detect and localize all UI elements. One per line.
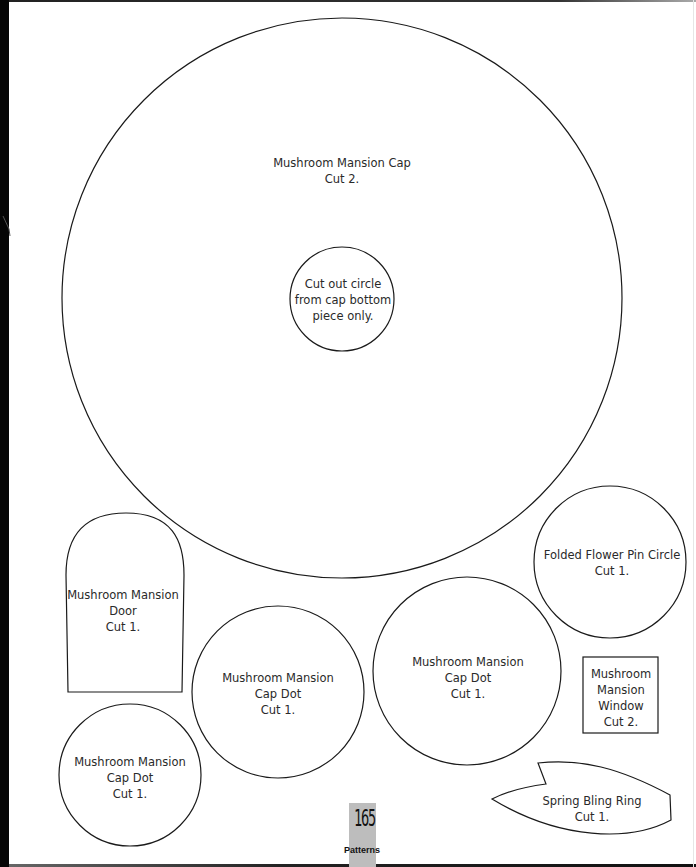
pattern-outlines [0,0,696,867]
door-name: Door [67,603,179,619]
cap-dot-name: Cap Dot [74,770,186,786]
cap-cutout-label: Cut out circle from cap bottom piece onl… [295,276,391,324]
window-name: Mansion [591,682,651,698]
cap-dot-name: Mushroom Mansion [412,654,524,670]
door-cut-count: Cut 1. [67,619,179,635]
door-label: Mushroom Mansion Door Cut 1. [67,587,179,635]
cap-dot-name: Mushroom Mansion [222,670,334,686]
window-name: Mushroom [591,666,651,682]
page-number: 165 [354,805,371,831]
section-label: Patterns [344,845,380,855]
cap-dot-cut-count: Cut 1. [412,686,524,702]
flower-pin-name: Folded Flower Pin Circle [544,547,681,563]
window-label: Mushroom Mansion Window Cut 2. [591,666,651,730]
cap-dot-middle-label: Mushroom Mansion Cap Dot Cut 1. [222,670,334,718]
cap-dot-name: Cap Dot [222,686,334,702]
cap-dot-small-label: Mushroom Mansion Cap Dot Cut 1. [74,754,186,802]
cap-dot-cut-count: Cut 1. [222,702,334,718]
window-cut-count: Cut 2. [591,714,651,730]
cap-dot-cut-count: Cut 1. [74,786,186,802]
window-name: Window [591,698,651,714]
flower-pin-label: Folded Flower Pin Circle Cut 1. [544,547,681,579]
cutout-instruction-line: Cut out circle [295,276,391,292]
cap-dot-large-label: Mushroom Mansion Cap Dot Cut 1. [412,654,524,702]
cap-dot-name: Cap Dot [412,670,524,686]
cutout-instruction-line: piece only. [295,308,391,324]
cap-name: Mushroom Mansion Cap [273,155,411,171]
ring-label: Spring Bling Ring Cut 1. [542,793,641,825]
door-name: Mushroom Mansion [67,587,179,603]
cap-cut-count: Cut 2. [273,171,411,187]
flower-pin-cut-count: Cut 1. [544,563,681,579]
ring-name: Spring Bling Ring [542,793,641,809]
cutout-instruction-line: from cap bottom [295,292,391,308]
cap-dot-name: Mushroom Mansion [74,754,186,770]
ring-cut-count: Cut 1. [542,809,641,825]
cap-label: Mushroom Mansion Cap Cut 2. [273,155,411,187]
